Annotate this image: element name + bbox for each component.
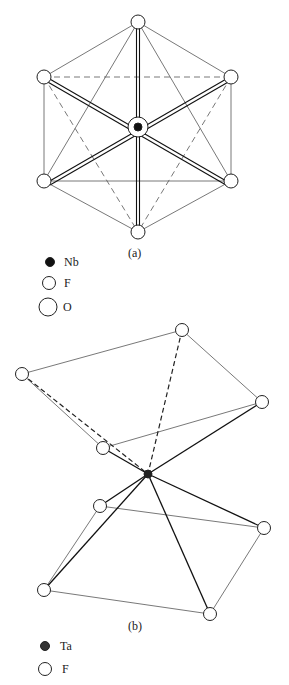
f-atom-b6: [258, 522, 271, 535]
legend-b-label-ta: Ta: [60, 639, 72, 654]
f-atom-lower-left: [37, 174, 51, 188]
caption-b: (b): [128, 619, 142, 634]
f-atom-b4: [97, 442, 110, 455]
f-atom-b8: [204, 608, 217, 621]
legend-a-label-o: O: [63, 300, 72, 315]
f-legend-icon: [43, 277, 56, 290]
legend-b-symbols: [39, 642, 52, 676]
legend-b-label-f: F: [62, 662, 69, 677]
f-atom-b2: [16, 368, 29, 381]
legend-a-symbols: [39, 258, 57, 317]
f-atom-upper-left: [37, 70, 51, 84]
f-atom-lower-right: [224, 174, 238, 188]
legend-a-label-f: F: [64, 276, 71, 291]
f-atom-b7: [38, 584, 51, 597]
f-atom-b1: [176, 324, 189, 337]
ta-atom-center: [144, 470, 152, 478]
nb-atom-center: [134, 123, 142, 131]
f-legend-icon-b: [39, 663, 52, 676]
caption-a: (a): [128, 246, 141, 261]
nb-legend-icon: [46, 258, 55, 267]
f-atom-upper-right: [224, 70, 238, 84]
f-atom-b3: [256, 396, 269, 409]
f-atom-bottom: [131, 225, 145, 239]
structure-diagrams: [0, 0, 289, 685]
figure-a-atoms: [37, 15, 238, 239]
figure-b-diagram: [22, 330, 264, 614]
figure-b-bonds: [44, 402, 264, 614]
f-atom-top: [131, 15, 145, 29]
legend-a-label-nb: Nb: [64, 255, 79, 270]
f-atom-b5: [94, 500, 107, 513]
o-legend-icon: [39, 298, 57, 316]
ta-legend-icon: [41, 642, 50, 651]
